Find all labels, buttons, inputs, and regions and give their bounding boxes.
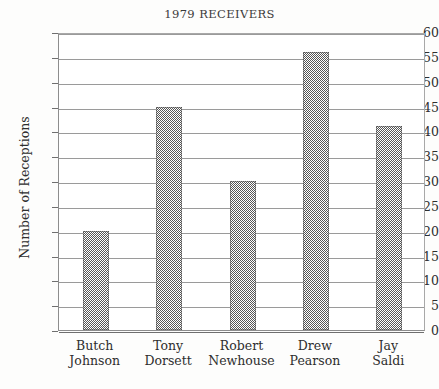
- gridline: [59, 133, 424, 134]
- bar: [303, 52, 329, 330]
- y-axis-title: Number of Receptions: [17, 98, 32, 278]
- chart-title: 1979 RECEIVERS: [0, 7, 439, 21]
- bar: [156, 107, 182, 331]
- x-axis-label: JaySaldi: [333, 338, 439, 368]
- bar: [83, 231, 109, 330]
- y-tick-mark: [52, 331, 58, 332]
- gridline: [59, 332, 424, 333]
- gridline: [59, 84, 424, 85]
- gridline: [59, 34, 424, 35]
- gridline: [59, 109, 424, 110]
- x-axis-label-line: Saldi: [333, 353, 439, 368]
- plot-area: [58, 33, 425, 331]
- bar-chart: 1979 RECEIVERS Number of Receptions 0510…: [0, 0, 439, 389]
- bar: [376, 126, 402, 330]
- gridline: [59, 158, 424, 159]
- gridline: [59, 59, 424, 60]
- x-axis-label-line: Jay: [333, 338, 439, 353]
- bar: [230, 181, 256, 330]
